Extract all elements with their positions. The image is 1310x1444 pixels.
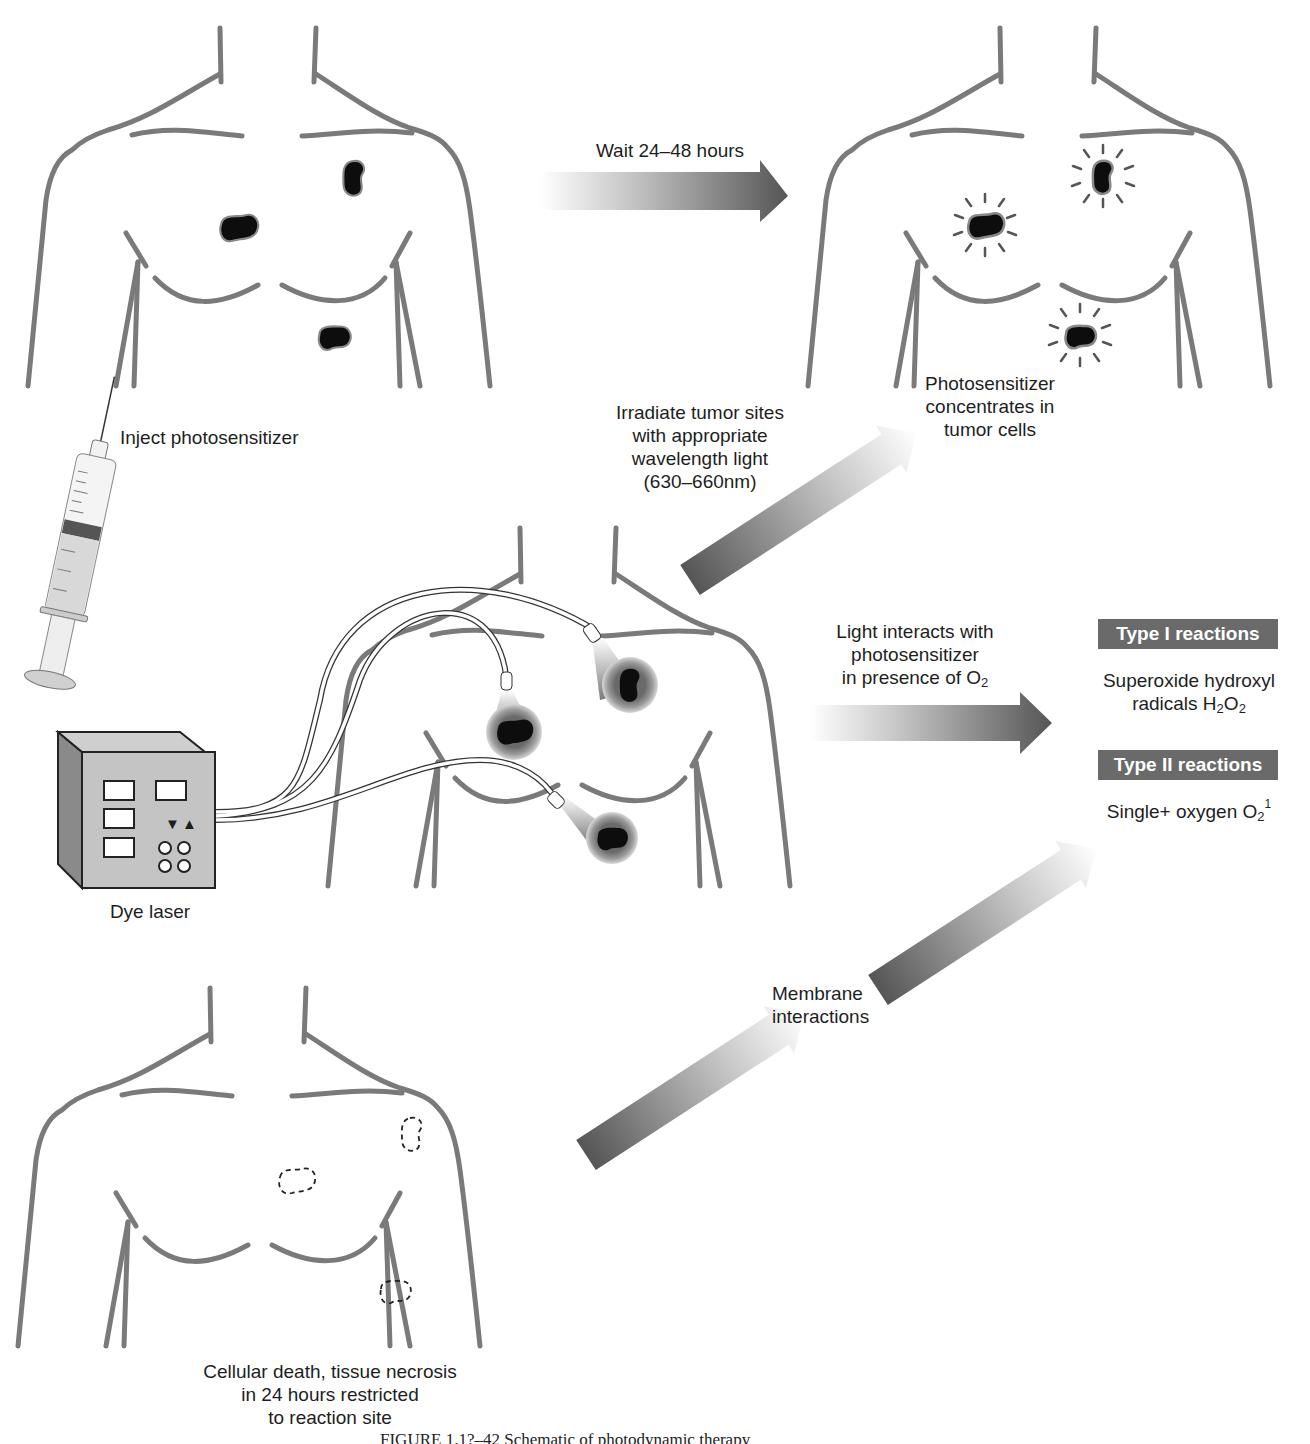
inject-label: Inject photosensitizer (120, 426, 299, 449)
irradiate-label: Irradiate tumor sites with appropriate w… (590, 401, 810, 493)
result-line1: Cellular death, tissue necrosis (170, 1360, 490, 1383)
torso-concentrated (808, 28, 1270, 386)
membrane-label: Membrane interactions (772, 982, 869, 1028)
irradiate-line1: Irradiate tumor sites (590, 401, 810, 424)
down-arrow-icon: ▼ (165, 812, 180, 835)
membrane-line1: Membrane (772, 982, 869, 1005)
irradiate-line4: (630–660nm) (590, 470, 810, 493)
dye-laser-device (58, 732, 215, 888)
wait-label: Wait 24–48 hours (560, 139, 780, 162)
type1-reactions-badge: Type I reactions (1098, 619, 1278, 649)
concentrates-line3: tumor cells (890, 418, 1090, 441)
concentrates-line2: concentrates in (890, 395, 1090, 418)
light-interacts-line3: in presence of O2 (810, 666, 1020, 689)
dye-laser-label: Dye laser (80, 900, 220, 923)
diagram-artwork (0, 0, 1310, 1444)
light-interacts-line2: photosensitizer (810, 643, 1020, 666)
syringe-icon (23, 371, 140, 693)
light-interacts-line1: Light interacts with (810, 620, 1020, 643)
torso-necrosis (18, 988, 480, 1346)
type1-reactions-text: Superoxide hydroxyl radicals H2O2 (1084, 669, 1294, 715)
irradiate-line2: with appropriate (590, 424, 810, 447)
light-interacts-label: Light interacts with photosensitizer in … (810, 620, 1020, 689)
concentrates-label: Photosensitizer concentrates in tumor ce… (890, 372, 1090, 441)
arrow-light-interacts (810, 692, 1052, 754)
torso-injected (28, 28, 490, 386)
arrow-membrane (863, 825, 1112, 1014)
type1-line2: radicals H2O2 (1084, 692, 1294, 715)
type2-reactions-badge: Type II reactions (1098, 750, 1278, 780)
irradiate-line3: wavelength light (590, 447, 810, 470)
up-arrow-icon: ▲ (182, 812, 197, 835)
result-line3: to reaction site (170, 1406, 490, 1429)
concentrates-line1: Photosensitizer (890, 372, 1090, 395)
result-label: Cellular death, tissue necrosis in 24 ho… (170, 1360, 490, 1429)
result-line2: in 24 hours restricted (170, 1383, 490, 1406)
arrow-wait (540, 160, 788, 222)
type2-reactions-text: Single+ oxygen O21 (1084, 800, 1294, 823)
membrane-line2: interactions (772, 1005, 869, 1028)
figure-caption: FIGURE 1.1?–42 Schematic of photodynamic… (380, 1429, 1000, 1444)
type1-line1: Superoxide hydroxyl (1084, 669, 1294, 692)
